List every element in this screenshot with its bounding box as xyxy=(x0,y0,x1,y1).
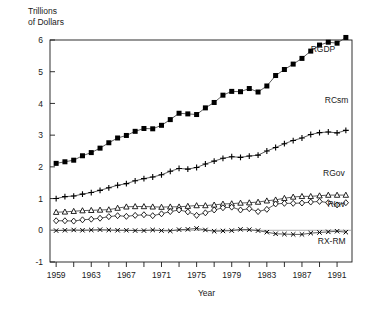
data-point xyxy=(238,89,243,94)
data-point xyxy=(71,218,76,224)
y-tick-label: 1 xyxy=(38,194,43,204)
data-point xyxy=(132,178,138,184)
data-point xyxy=(115,213,120,219)
data-point xyxy=(133,129,138,134)
data-point xyxy=(203,105,208,110)
data-point xyxy=(133,212,138,218)
data-point xyxy=(71,193,77,199)
data-point xyxy=(299,135,305,141)
data-point xyxy=(229,154,235,160)
series-rx-rm xyxy=(54,226,348,236)
data-point xyxy=(308,199,313,205)
data-point xyxy=(150,126,155,131)
series-rgdp xyxy=(54,35,349,166)
data-point xyxy=(62,218,67,224)
data-point xyxy=(290,138,296,144)
x-tick-label: 1963 xyxy=(82,270,101,280)
y-tick-label: 4 xyxy=(38,99,43,109)
x-tick-label: 1971 xyxy=(152,270,171,280)
data-point xyxy=(247,206,252,212)
data-point xyxy=(97,215,102,221)
data-point xyxy=(53,196,59,202)
data-point xyxy=(317,198,322,204)
data-point xyxy=(89,216,94,222)
data-point xyxy=(194,212,199,218)
data-point xyxy=(282,141,288,147)
data-point xyxy=(124,133,129,138)
data-point xyxy=(62,159,67,164)
series-label-rcsm: RCsm xyxy=(325,95,349,105)
data-point xyxy=(159,211,164,217)
data-point xyxy=(238,154,244,160)
data-point xyxy=(211,158,217,164)
data-point xyxy=(282,200,287,206)
series-label-rgov: RGov xyxy=(323,168,345,178)
data-point xyxy=(334,130,340,136)
y-tick-label: 6 xyxy=(38,35,43,45)
data-point xyxy=(255,209,260,215)
data-point xyxy=(282,67,287,72)
data-point xyxy=(194,165,200,171)
series-rcsm xyxy=(53,127,349,201)
x-tick-label: 1987 xyxy=(292,270,311,280)
data-point xyxy=(291,200,296,206)
data-point xyxy=(220,155,226,161)
data-point xyxy=(159,172,165,178)
x-tick-label: 1979 xyxy=(222,270,241,280)
data-point xyxy=(80,153,85,158)
data-point xyxy=(202,161,208,167)
data-point xyxy=(54,218,59,224)
data-point xyxy=(264,148,270,154)
y-tick-label: 2 xyxy=(38,162,43,172)
y-tick-label: -1 xyxy=(35,257,43,267)
y-tick-label: 3 xyxy=(38,130,43,140)
series-label-rx-rm: RX-RM xyxy=(318,236,346,246)
data-point xyxy=(325,129,331,135)
data-point xyxy=(106,185,112,191)
x-tick-label: 1967 xyxy=(117,270,136,280)
data-point xyxy=(273,73,278,78)
data-point xyxy=(256,90,261,95)
data-point xyxy=(124,213,129,219)
line-chart-plot: -101234561959196319671971197519791983198… xyxy=(0,0,379,309)
data-point xyxy=(141,212,146,218)
data-point xyxy=(238,207,243,213)
data-point xyxy=(308,132,314,138)
data-point xyxy=(185,111,190,116)
data-point xyxy=(229,89,234,94)
data-point xyxy=(98,146,103,151)
data-point xyxy=(246,153,252,159)
data-point xyxy=(80,191,86,197)
data-point xyxy=(54,161,59,166)
data-point xyxy=(115,135,120,140)
data-point xyxy=(150,213,155,219)
data-point xyxy=(273,145,279,151)
chart-container: Trillions of Dollars -101234561959196319… xyxy=(0,0,379,309)
x-tick-label: 1983 xyxy=(257,270,276,280)
data-point xyxy=(264,206,269,212)
y-tick-label: 5 xyxy=(38,67,43,77)
data-point xyxy=(343,35,348,40)
x-axis-title-text: Year xyxy=(198,288,215,298)
data-point xyxy=(97,187,103,193)
x-axis-title: Year xyxy=(0,288,379,298)
data-point xyxy=(62,194,68,200)
data-point xyxy=(150,174,156,180)
x-tick-label: 1959 xyxy=(47,270,66,280)
data-point xyxy=(106,214,111,220)
series-label-rgdp: RGDP xyxy=(311,44,336,54)
data-point xyxy=(177,111,182,116)
x-tick-label: 1975 xyxy=(187,270,206,280)
data-point xyxy=(212,100,217,105)
plot-frame xyxy=(50,40,352,262)
data-point xyxy=(159,123,164,128)
data-point xyxy=(299,56,304,61)
data-point xyxy=(176,166,182,172)
data-point xyxy=(212,207,217,213)
data-point xyxy=(115,182,121,188)
data-point xyxy=(299,200,304,206)
data-point xyxy=(194,112,199,117)
data-point xyxy=(343,127,349,133)
data-point xyxy=(89,150,94,155)
data-point xyxy=(141,126,146,131)
